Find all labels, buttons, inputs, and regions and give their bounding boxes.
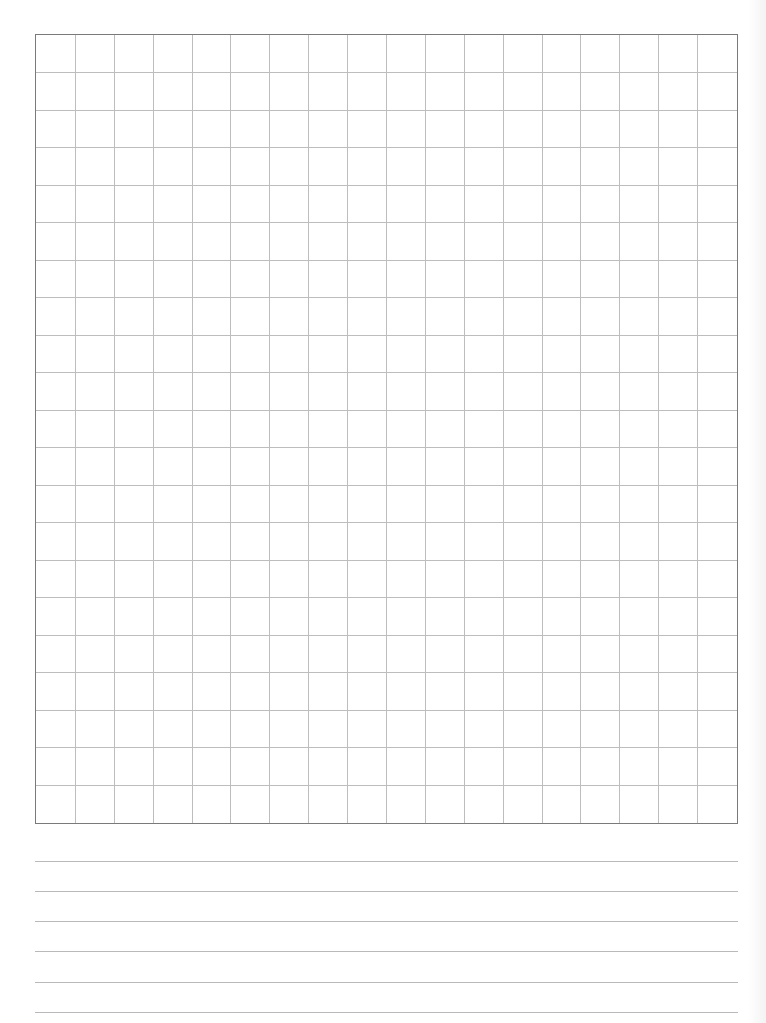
grid-row-line [36,372,737,373]
grid-row-line [36,297,737,298]
grid-column-line [347,35,348,823]
grid-row-line [36,110,737,111]
grid-row-line [36,222,737,223]
grid-column-line [542,35,543,823]
grid-column-line [230,35,231,823]
grid-row-line [36,635,737,636]
grid-column-line [658,35,659,823]
grid-row-line [36,72,737,73]
ruled-line [35,921,738,922]
grid-column-line [697,35,698,823]
grid-column-line [619,35,620,823]
grid-column-line [153,35,154,823]
grid-row-line [36,185,737,186]
grid-row-line [36,410,737,411]
grid-row-line [36,335,737,336]
grid-row-line [36,147,737,148]
grid-column-line [114,35,115,823]
grid-row-line [36,260,737,261]
ruled-line [35,982,738,983]
grid-row-line [36,485,737,486]
grid-column-line [75,35,76,823]
ruled-line [35,891,738,892]
grid-row-line [36,672,737,673]
grid-column-line [308,35,309,823]
grid-column-line [464,35,465,823]
graph-paper-page [0,0,766,1023]
grid-column-line [503,35,504,823]
grid-column-line [192,35,193,823]
page-edge-shadow [748,0,766,1023]
grid-row-line [36,560,737,561]
grid-row-line [36,447,737,448]
ruled-line [35,861,738,862]
grid-column-line [425,35,426,823]
grid-row-line [36,597,737,598]
grid-row-line [36,785,737,786]
grid-column-line [580,35,581,823]
ruled-line [35,951,738,952]
grid-row-line [36,522,737,523]
ruled-line [35,1012,738,1013]
grid-row-line [36,747,737,748]
grid-column-line [386,35,387,823]
grid-column-line [269,35,270,823]
graph-grid [35,34,738,824]
grid-row-line [36,710,737,711]
